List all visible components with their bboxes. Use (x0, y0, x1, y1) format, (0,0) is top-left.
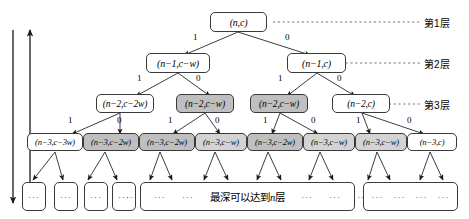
tree-node-level4-2[interactable]: (n−3,c−2w) (139, 133, 195, 151)
dots-right-box-1: ··· (394, 192, 406, 202)
tree-node-level4-0[interactable]: (n−3,c−3w) (27, 133, 83, 151)
dots-right-1: ··· (329, 192, 341, 202)
dots-left-0: ··· (126, 192, 138, 202)
bottom-right-ellipsis-box[interactable]: ··· ··· ··· ··· (363, 182, 458, 211)
tree-node-level4-5[interactable]: (n−3,c−w) (303, 133, 355, 151)
dots-right-box-0: ··· (372, 192, 384, 202)
bottom-ellipsis-box-2[interactable]: ··· (84, 182, 108, 211)
edge-label-2-2: 1 (278, 73, 283, 83)
edge-label-3-5: 0 (311, 115, 316, 125)
tree-node-level4-1[interactable]: (n−3,c−2w) (83, 133, 139, 151)
tree-node-level3-2[interactable]: (n−2,c−w) (250, 94, 308, 113)
edge-label-3-6: 1 (356, 115, 361, 125)
dots-right-box-3: ··· (438, 192, 450, 202)
level-tag-2: 第2层 (424, 56, 450, 71)
edge-label-3-1: 0 (117, 115, 122, 125)
recursion-tree-diagram: 第1层 第2层 第3层 (n,c) (n−1,c−w) (n−1,c) (n−2… (0, 0, 469, 219)
tree-node-level1-0[interactable]: (n,c) (210, 12, 267, 32)
edge-label-3-7: 0 (407, 115, 412, 125)
dots-left-1: ··· (154, 192, 166, 202)
level-tag-3: 第3层 (424, 97, 450, 112)
tree-node-level2-0[interactable]: (n−1,c−w) (146, 53, 210, 73)
edge-label-1-1: 0 (285, 32, 290, 42)
tree-node-level2-1[interactable]: (n−1,c) (287, 53, 346, 73)
dots-left-2: ··· (182, 192, 194, 202)
edge-label-2-0: 1 (137, 73, 142, 83)
dots-right-0: ··· (301, 192, 313, 202)
bottom-ellipsis-box-1[interactable]: ··· (54, 182, 78, 211)
edge-label-3-4: 1 (263, 115, 268, 125)
bottom-ellipsis-box-0[interactable]: ··· (22, 182, 46, 211)
tree-node-level3-0[interactable]: (n−2,c−2w) (96, 94, 154, 113)
direction-arrows (13, 30, 30, 203)
dots-right-box-2: ··· (416, 192, 428, 202)
edge-label-3-2: 1 (168, 115, 173, 125)
tree-node-level3-1[interactable]: (n−2,c−w) (176, 94, 234, 113)
tree-node-level4-6[interactable]: (n−3,c−w) (355, 133, 407, 151)
tree-node-level3-3[interactable]: (n−2,c) (332, 94, 390, 113)
edge-label-2-1: 0 (196, 73, 201, 83)
tree-node-level4-7[interactable]: (n−3,c) (407, 133, 457, 151)
max-depth-caption: 最深可以达到n层 (210, 189, 285, 204)
tree-node-level4-4[interactable]: (n−3,c−2w) (247, 133, 303, 151)
edge-label-1-0: 1 (193, 32, 198, 42)
edge-label-2-3: 0 (337, 73, 342, 83)
bottom-depth-caption-box[interactable]: ··· ··· ··· 最深可以达到n层 ··· ··· ··· (140, 182, 355, 211)
edge-label-3-3: 0 (215, 115, 220, 125)
tree-node-level4-3[interactable]: (n−3,c−w) (195, 133, 247, 151)
edge-label-3-0: 1 (68, 115, 73, 125)
level-tag-1: 第1层 (424, 15, 450, 30)
